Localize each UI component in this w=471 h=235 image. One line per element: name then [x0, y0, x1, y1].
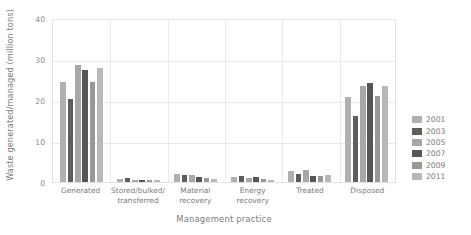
legend-swatch	[412, 162, 422, 169]
y-axis-title-text: Waste generated/managed (million tons)	[5, 9, 15, 181]
bar	[382, 86, 388, 182]
legend-item[interactable]: 2007	[412, 148, 468, 159]
bar	[189, 175, 195, 182]
bar-group	[224, 20, 281, 182]
legend-label: 2009	[426, 161, 445, 170]
bar-group	[53, 20, 110, 182]
bar	[367, 83, 373, 182]
bar	[211, 179, 217, 182]
bar	[117, 179, 123, 182]
legend-item[interactable]: 2005	[412, 137, 468, 148]
bar	[288, 171, 294, 182]
bar	[204, 178, 210, 182]
x-axis-title: Management practice	[52, 214, 396, 224]
x-axis-tick-label: Stored/bulked/transferred	[109, 186, 166, 216]
bar	[231, 177, 237, 182]
bar	[125, 178, 131, 182]
bar	[60, 82, 66, 182]
y-axis-tick-label: 20	[35, 97, 45, 106]
bar	[261, 179, 267, 182]
bar	[268, 180, 274, 182]
legend-swatch	[412, 173, 422, 180]
legend-label: 2011	[426, 172, 445, 181]
bar	[253, 177, 259, 182]
bar	[325, 175, 331, 182]
y-axis-tick-label: 40	[35, 15, 45, 24]
bar	[296, 174, 302, 182]
legend-item[interactable]: 2003	[412, 125, 468, 136]
legend-label: 2005	[426, 138, 445, 147]
bar	[345, 97, 351, 182]
bar	[90, 82, 96, 182]
legend-label: 2003	[426, 127, 445, 136]
bar	[154, 180, 160, 182]
bar	[360, 86, 366, 182]
bar-group	[338, 20, 395, 182]
legend-label: 2007	[426, 149, 445, 158]
legend-label: 2001	[426, 115, 445, 124]
x-axis-tick-labels: GeneratedStored/bulked/transferredMateri…	[52, 186, 396, 216]
bar	[239, 176, 245, 182]
bar	[132, 180, 138, 182]
y-axis-tick-labels: 010203040	[20, 14, 48, 184]
bar	[75, 65, 81, 182]
bar	[68, 99, 74, 182]
legend-swatch	[412, 139, 422, 146]
bar-group	[281, 20, 338, 182]
bar	[139, 180, 145, 182]
bar	[174, 174, 180, 182]
legend-item[interactable]: 2009	[412, 160, 468, 171]
x-axis-tick-label: Energyrecovery	[224, 186, 281, 216]
legend-swatch	[412, 116, 422, 123]
bar-groups	[53, 20, 395, 182]
bar	[196, 177, 202, 182]
y-axis-title: Waste generated/managed (million tons)	[0, 0, 20, 190]
legend-item[interactable]: 2011	[412, 171, 468, 182]
bar	[375, 96, 381, 182]
y-axis-tick-label: 30	[35, 56, 45, 65]
bar	[310, 176, 316, 182]
y-axis-tick-label: 10	[35, 138, 45, 147]
bar	[353, 116, 359, 182]
bar-chart: Waste generated/managed (million tons) 0…	[0, 0, 471, 235]
bar	[318, 176, 324, 182]
x-axis-tick-label: Generated	[52, 186, 109, 216]
x-axis-tick-label: Treated	[281, 186, 338, 216]
bar-group	[110, 20, 167, 182]
bar	[82, 70, 88, 182]
legend: 200120032005200720092011	[412, 114, 468, 182]
bar	[147, 180, 153, 182]
legend-swatch	[412, 150, 422, 157]
legend-item[interactable]: 2001	[412, 114, 468, 125]
x-axis-tick-label: Disposed	[339, 186, 396, 216]
x-axis-tick-label: Materialrecovery	[167, 186, 224, 216]
bar	[182, 175, 188, 182]
plot-area	[52, 19, 396, 183]
bar	[303, 170, 309, 182]
y-axis-tick-label: 0	[40, 179, 45, 188]
legend-swatch	[412, 128, 422, 135]
bar	[246, 178, 252, 183]
bar-group	[167, 20, 224, 182]
bar	[97, 68, 103, 182]
